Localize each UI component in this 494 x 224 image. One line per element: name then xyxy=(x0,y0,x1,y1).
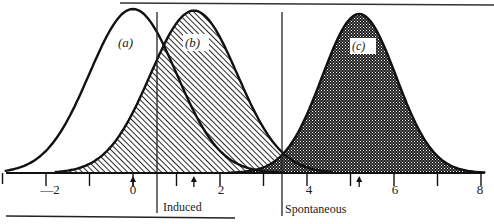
tick-label-6: 6 xyxy=(392,182,399,197)
tick-label-4: 4 xyxy=(306,182,313,197)
curve-a-label: (a) xyxy=(118,35,133,50)
induced-label: Induced xyxy=(163,200,202,214)
mean-arrow-icon xyxy=(191,176,197,187)
tick-label-8: 8 xyxy=(477,182,484,197)
mean-arrows xyxy=(130,176,362,187)
x-axis-ticks xyxy=(3,173,482,186)
bottom-border xyxy=(6,216,235,218)
spontaneous-label: Spontaneous xyxy=(285,202,347,216)
top-border xyxy=(120,3,494,5)
curve-b-label: (b) xyxy=(185,35,200,50)
tick-label-0: 0 xyxy=(130,182,137,197)
distribution-chart: —2 0 2 4 6 8 Induced Spontaneous (a) (b)… xyxy=(0,0,494,224)
tick-label-minus2: —2 xyxy=(39,182,60,197)
tick-label-2: 2 xyxy=(218,182,225,197)
curve-c-label: (c) xyxy=(352,39,365,53)
mean-arrow-icon xyxy=(356,176,362,187)
